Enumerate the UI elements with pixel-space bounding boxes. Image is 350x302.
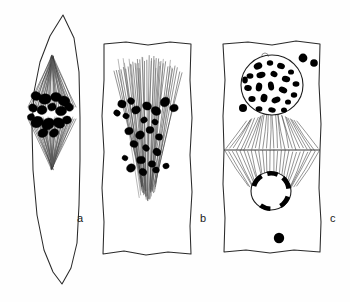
mitosis-figure-canvas: a b c (0, 0, 350, 302)
chromosome (146, 126, 154, 133)
chromatin-blob (267, 60, 273, 66)
chromatin-blob-external (299, 54, 308, 63)
free-granule-c (274, 233, 284, 243)
chromatin-blob (242, 77, 248, 84)
panel-label-a: a (77, 212, 84, 224)
chromatin-blob (281, 107, 287, 112)
panel-c: c (223, 41, 336, 253)
panel-b: b (102, 42, 206, 255)
chromatin-blob (248, 96, 255, 102)
chromatin-blob (247, 73, 254, 79)
chromatin-blob (293, 81, 300, 87)
panel-label-c: c (330, 212, 336, 224)
panel-label-b: b (200, 212, 206, 224)
chromatin-blob (288, 69, 294, 74)
chromatin-blob-external (310, 59, 318, 67)
chromatin-blob (285, 99, 291, 104)
chromosome (155, 133, 163, 140)
figure-root: a b c (0, 0, 350, 302)
chromatin-blob (291, 92, 297, 98)
chromatin-blob (256, 106, 263, 112)
chromatin-blob-external (239, 104, 247, 112)
